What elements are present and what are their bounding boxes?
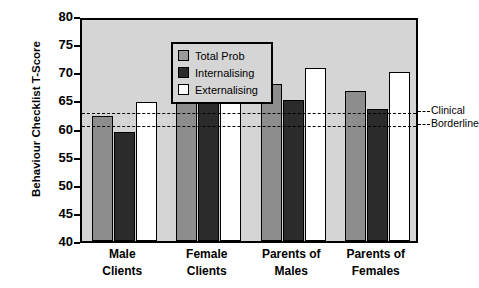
legend-label-internalising: Internalising [195,67,254,79]
x-axis-label: MaleClients [80,246,165,280]
bar [305,68,326,241]
x-axis-label-line: Clients [80,263,165,280]
x-axis-label-line: Parents of [334,246,419,263]
x-axis-label-line: Male [80,246,165,263]
y-axis-tick-label: 75 [59,37,73,53]
legend-label-externalising: Externalising [195,84,258,96]
bar-group [336,20,421,241]
legend-swatch-total-prob-icon [178,50,189,61]
x-axis-label-line: Clients [165,263,250,280]
legend-item-externalising: Externalising [178,81,266,98]
bar [176,85,197,241]
reference-line-borderline [82,126,416,127]
reference-line-extension [418,124,430,125]
chart-legend: Total Prob Internalising Externalising [171,42,273,104]
bar [389,72,410,241]
y-axis-tick-label: 65 [59,93,73,109]
reference-line-label-borderline: Borderline [431,117,479,129]
bar [114,132,135,241]
legend-item-internalising: Internalising [178,64,266,81]
y-axis-tick-label: 40 [59,234,73,250]
reference-line-clinical [82,113,416,114]
reference-line-extension [418,111,430,112]
legend-swatch-externalising-icon [178,84,189,95]
legend-label-total-prob: Total Prob [195,50,245,62]
legend-item-total-prob: Total Prob [178,47,266,64]
y-axis-tick-label: 55 [59,150,73,166]
x-axis-labels: MaleClientsFemaleClientsParents ofMalesP… [80,246,418,288]
x-axis-label: FemaleClients [165,246,250,280]
legend-swatch-internalising-icon [178,67,189,78]
x-axis-label-line: Parents of [249,246,334,263]
x-axis-label-line: Females [334,263,419,280]
y-axis-tick-label: 80 [59,9,73,25]
y-axis-tick-label: 60 [59,122,73,138]
reference-line-label-clinical: Clinical [431,104,465,116]
bar [92,116,113,241]
y-axis-tick-label: 50 [59,178,73,194]
y-axis-tick-label: 45 [59,206,73,222]
bar [198,98,219,241]
x-axis-label-line: Female [165,246,250,263]
y-axis-tick-label: 70 [59,65,73,81]
bar [283,100,304,241]
x-axis-label: Parents ofMales [249,246,334,280]
bar [261,84,282,242]
bar [367,109,388,241]
x-axis-label-line: Males [249,263,334,280]
plot-area: Total Prob Internalising Externalising [80,18,418,243]
y-axis: 807570656055504540 [52,18,80,243]
x-axis-label: Parents ofFemales [334,246,419,280]
y-axis-title: Behaviour Checklist T-Score [30,4,42,234]
bar-group [82,20,167,241]
bar [136,102,157,241]
